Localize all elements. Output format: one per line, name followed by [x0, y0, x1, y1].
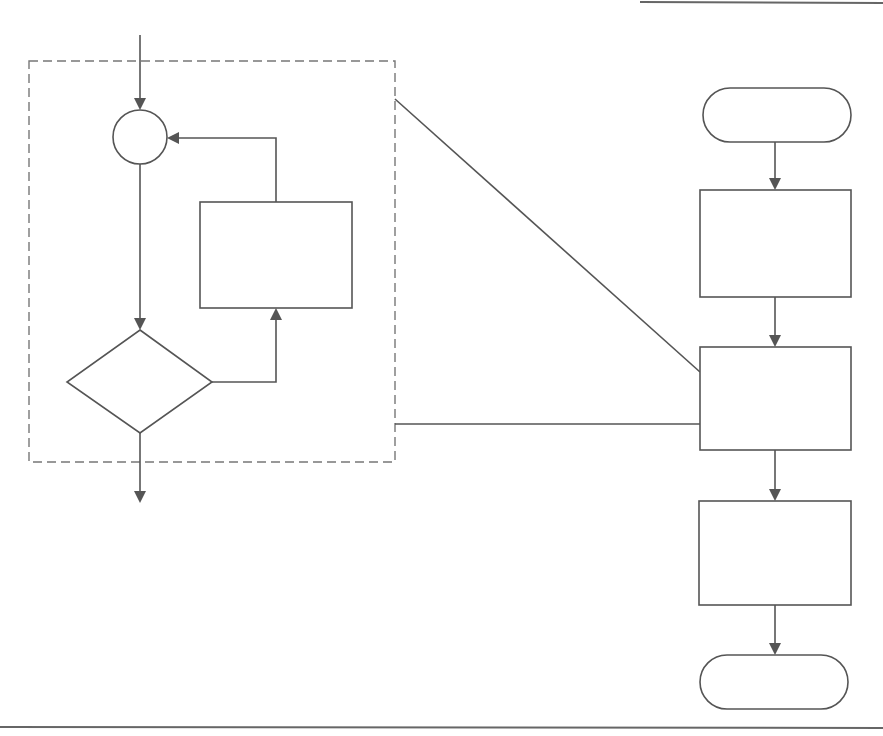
arrowhead-down-icon	[769, 178, 781, 190]
arrowhead-down-icon	[769, 335, 781, 347]
decision-to-loop-process-arrow	[212, 308, 282, 382]
arrowhead-left-icon	[167, 132, 179, 144]
end-terminator[interactable]	[700, 655, 848, 709]
arrowhead-down-icon	[134, 491, 146, 503]
step2-node[interactable]	[700, 347, 851, 450]
start-to-step1-arrow	[769, 142, 781, 190]
arrowhead-down-icon	[134, 98, 146, 110]
step3-to-end-arrow	[769, 605, 781, 655]
step3-node[interactable]	[699, 501, 851, 605]
arrowhead-down-icon	[134, 318, 146, 330]
junction-to-decision-arrow	[134, 164, 146, 330]
exit-arrow	[134, 433, 146, 503]
step1-node[interactable]	[700, 190, 851, 297]
start-terminator[interactable]	[703, 88, 851, 142]
bottom-rule	[0, 727, 883, 728]
loop-process-node[interactable]	[200, 202, 352, 308]
arrowhead-down-icon	[769, 489, 781, 501]
flowchart-diagram	[0, 0, 883, 736]
loop-detail-group	[29, 35, 395, 503]
top-rule	[640, 2, 883, 3]
feedback-arrow	[167, 132, 276, 202]
decision-node[interactable]	[67, 330, 212, 433]
entry-arrow	[134, 35, 146, 110]
junction-node[interactable]	[113, 110, 167, 164]
step1-to-step2-arrow	[769, 297, 781, 347]
arrowhead-up-icon	[270, 308, 282, 320]
main-flow-group	[699, 88, 851, 709]
callout-diagonal-line	[395, 99, 700, 372]
arrowhead-down-icon	[769, 643, 781, 655]
step2-to-step3-arrow	[769, 450, 781, 501]
